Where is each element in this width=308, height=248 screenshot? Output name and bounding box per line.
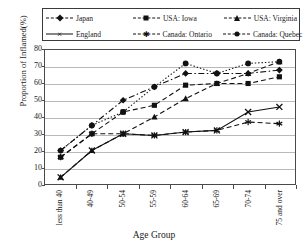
x-tick-mark <box>296 185 297 189</box>
x-tick-mark <box>139 185 140 189</box>
legend-swatch-japan <box>46 13 73 23</box>
plot-area <box>44 49 296 185</box>
legend-item-canada-quebec: Canada: Quebec <box>223 26 297 42</box>
legend-row-2: × England ✱ Canada: Ontario Canada: Queb… <box>46 26 297 42</box>
x-tick-mark <box>265 185 266 189</box>
x-tick-label: 70-74 <box>245 190 253 208</box>
x-tick-label: 55-59 <box>150 190 158 208</box>
y-tick-label: 20 <box>16 147 42 155</box>
legend-item-canada-ontario: ✱ Canada: Ontario <box>133 26 223 42</box>
legend-swatch-usa-virginia <box>224 13 251 23</box>
x-tick-mark <box>170 185 171 189</box>
x-tick-mark <box>107 185 108 189</box>
legend-row-1: Japan USA: Iowa USA: Virginia <box>46 10 297 26</box>
x-tick-label: 60-64 <box>182 190 190 208</box>
series-england <box>58 104 283 180</box>
legend-label-canada-quebec: Canada: Quebec <box>253 30 302 39</box>
series-layer <box>45 50 295 184</box>
legend-swatch-canada-quebec <box>223 29 250 39</box>
x-axis-label: Age Group <box>0 230 308 240</box>
x-tick-mark <box>233 185 234 189</box>
x-tick-label: 75 and over <box>276 190 284 225</box>
legend-item-england: × England <box>46 26 133 42</box>
x-tick-mark <box>76 185 77 189</box>
legend-item-usa-iowa: USA: Iowa <box>133 10 224 26</box>
x-tick-label: less than 40 <box>56 190 64 225</box>
x-tick-label: 65-69 <box>213 190 221 208</box>
series-usa-virginia <box>57 58 282 179</box>
series-usa-iowa <box>58 74 282 160</box>
y-axis-label: Proportion of Inflamed(%) <box>18 0 28 129</box>
x-tick-label: 40-49 <box>87 190 95 208</box>
x-tick-label: 50-54 <box>119 190 127 208</box>
legend-label-usa-virginia: USA: Virginia <box>254 14 297 23</box>
y-tick-label: 0 <box>16 181 42 189</box>
legend-item-usa-virginia: USA: Virginia <box>224 10 297 26</box>
legend-swatch-usa-iowa <box>133 13 160 23</box>
y-tick-label: 10 <box>16 164 42 172</box>
legend-label-japan: Japan <box>76 14 93 23</box>
y-tick-mark <box>42 185 45 186</box>
legend-swatch-canada-ontario: ✱ <box>133 29 160 39</box>
y-tick-label: 30 <box>16 130 42 138</box>
x-tick-mark <box>202 185 203 189</box>
legend-label-canada-ontario: Canada: Ontario <box>163 30 212 39</box>
legend-swatch-england: × <box>46 29 73 39</box>
legend-item-japan: Japan <box>46 10 133 26</box>
chart-legend: Japan USA: Iowa USA: Virginia × Englan <box>42 8 300 41</box>
legend-label-usa-iowa: USA: Iowa <box>163 14 197 23</box>
legend-label-england: England <box>76 30 101 39</box>
chart-root: Japan USA: Iowa USA: Virginia × Englan <box>0 0 308 248</box>
